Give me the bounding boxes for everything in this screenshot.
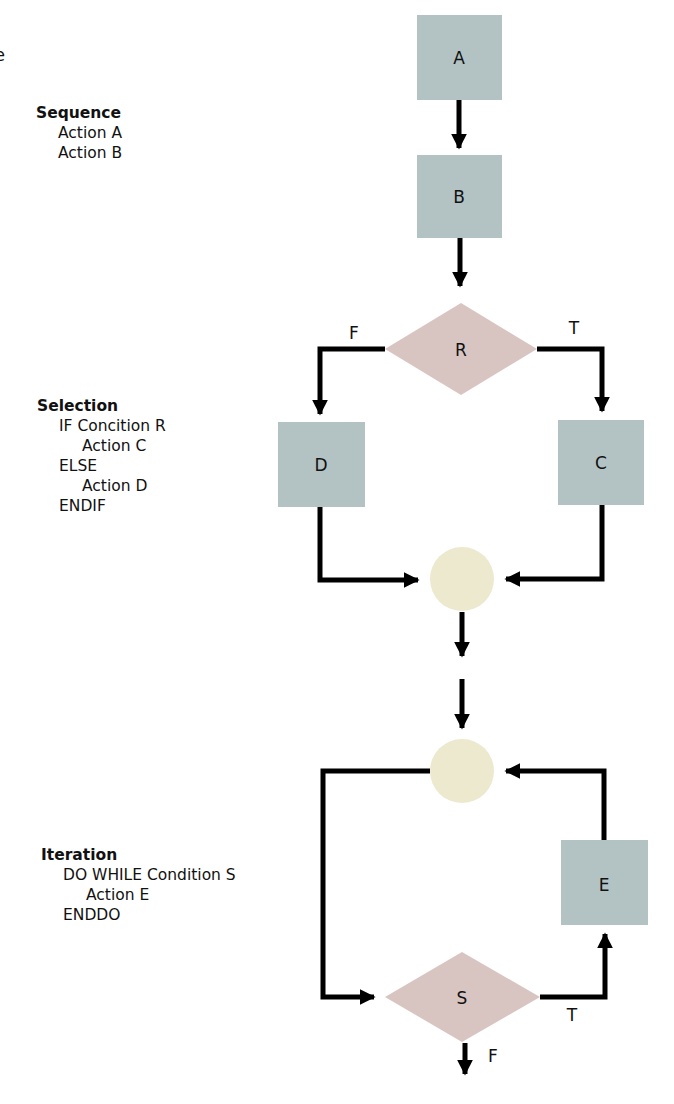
arrow-loop-to-s xyxy=(323,771,430,997)
node-label-e: E xyxy=(599,875,610,895)
node-label-b: B xyxy=(453,187,465,207)
node-label-s: S xyxy=(457,988,468,1008)
arrow-c-to-join xyxy=(506,505,602,579)
arrow-r-false-to-d xyxy=(320,349,385,414)
edge-label-s-true: T xyxy=(566,1005,578,1025)
arrow-e-to-loop xyxy=(506,771,604,840)
edge-label-r-true: T xyxy=(568,318,580,338)
connector-circle-loop xyxy=(430,739,494,803)
arrow-s-true-to-e xyxy=(540,934,605,997)
node-label-a: A xyxy=(453,48,465,68)
flowchart: A B R F T D C E S T F xyxy=(0,0,674,1104)
arrow-d-to-join xyxy=(320,507,418,580)
node-label-r: R xyxy=(455,340,467,360)
node-label-d: D xyxy=(314,455,327,475)
edge-label-r-false: F xyxy=(349,323,359,343)
connector-circle-join xyxy=(430,547,494,611)
node-label-c: C xyxy=(595,453,607,473)
arrow-r-true-to-c xyxy=(537,349,602,411)
edge-label-s-false: F xyxy=(488,1046,498,1066)
